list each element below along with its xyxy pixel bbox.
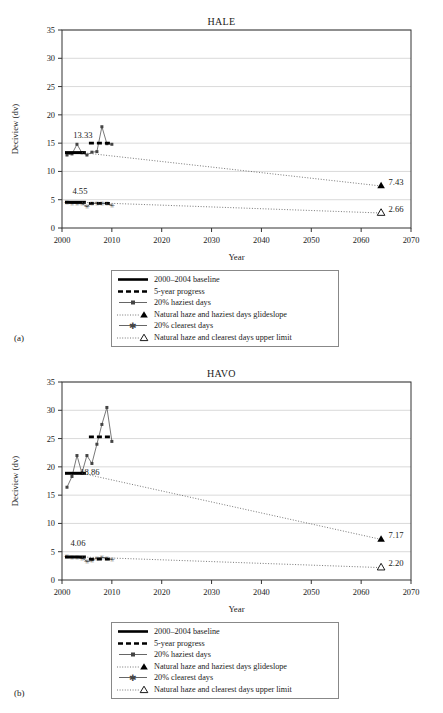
y-tick-label: 35	[47, 378, 55, 387]
series-haziest-marker	[100, 423, 103, 426]
line-square-marker-icon	[116, 297, 150, 308]
y-tick-label: 10	[47, 519, 55, 528]
limit-endpoint-marker-open	[377, 209, 385, 216]
svg-text:✱: ✱	[129, 321, 137, 331]
line-star-marker-icon: ✱	[116, 320, 150, 331]
legend-item: Natural haze and clearest days upper lim…	[116, 684, 334, 696]
x-axis-title: Year	[228, 604, 244, 614]
y-tick-label: 25	[47, 435, 55, 444]
series-haziest-marker	[70, 475, 73, 478]
legend-item-label: 20% clearest days	[154, 320, 213, 331]
series-limit-clearest	[82, 557, 381, 568]
y-tick-label: 15	[47, 491, 55, 500]
series-haziest-marker	[95, 443, 98, 446]
y-tick-label: 20	[47, 463, 55, 472]
series-limit-clearest	[82, 202, 381, 213]
annotation-baseline-value-haziest: 18.86	[80, 467, 100, 477]
x-tick-label: 2070	[403, 236, 420, 245]
annotation-glideslope-endpoint-haziest: 7.17	[389, 530, 405, 540]
series-haziest-marker	[110, 440, 113, 443]
dashed-thick-line-icon	[116, 286, 150, 297]
y-tick-label: 30	[47, 406, 55, 415]
legend-item: 20% haziest days	[116, 297, 334, 309]
glideslope-endpoint-marker-filled	[377, 535, 385, 542]
solid-thick-line-icon	[116, 274, 150, 285]
chart-svg-hale: 0510152025303520002010202020302040205020…	[0, 0, 443, 270]
legend-item-label: Natural haze and clearest days upper lim…	[154, 332, 292, 343]
glideslope-endpoint-marker-filled	[377, 182, 385, 189]
legend-item-label: 5-year progress	[154, 638, 205, 649]
annotation-baseline-value-haziest: 13.33	[73, 130, 92, 140]
series-haziest-marker	[110, 143, 113, 146]
legend-item: Natural haze and haziest days glideslope	[116, 309, 334, 321]
dotted-line-open-triangle-icon	[116, 684, 150, 695]
x-tick-label: 2060	[353, 236, 370, 245]
legend-item: 5-year progress	[116, 638, 334, 650]
plot-area-hale: 0510152025303520002010202020302040205020…	[0, 0, 443, 270]
legend-item: 5-year progress	[116, 286, 334, 298]
legend-item-label: 20% clearest days	[154, 672, 213, 683]
x-axis-title: Year	[228, 252, 244, 262]
dotted-line-open-triangle-icon	[116, 332, 150, 343]
series-haziest-marker	[85, 454, 88, 457]
x-tick-label: 2030	[203, 236, 220, 245]
annotation-glideslope-endpoint-clearest: 2.66	[389, 204, 405, 214]
series-glideslope-haziest	[82, 153, 381, 186]
y-axis-title: Deciview (dv)	[10, 104, 20, 155]
annotation-glideslope-endpoint-clearest: 2.20	[389, 558, 404, 568]
x-tick-label: 2060	[353, 588, 370, 597]
panel-letter-a: (a)	[14, 333, 24, 343]
legend-item: ✱ 20% clearest days	[116, 672, 334, 684]
y-tick-label: 5	[51, 548, 55, 557]
series-haziest-marker	[105, 406, 108, 409]
y-tick-label: 5	[51, 196, 55, 205]
legend-item-label: 2000–2004 baseline	[154, 274, 220, 285]
dotted-line-filled-triangle-icon	[116, 661, 150, 672]
series-haziest-marker	[75, 143, 78, 146]
y-tick-label: 35	[47, 26, 55, 35]
x-tick-label: 2050	[303, 588, 320, 597]
legend-item: 20% haziest days	[116, 649, 334, 661]
x-tick-label: 2020	[153, 588, 170, 597]
limit-endpoint-marker-open	[377, 563, 385, 570]
legend-item: Natural haze and haziest days glideslope	[116, 661, 334, 673]
legend-item: Natural haze and clearest days upper lim…	[116, 332, 334, 344]
line-star-marker-icon: ✱	[116, 672, 150, 683]
legend-item: 2000–2004 baseline	[116, 626, 334, 638]
y-tick-label: 25	[47, 83, 55, 92]
y-tick-label: 20	[47, 111, 55, 120]
x-tick-label: 2070	[403, 588, 420, 597]
y-axis-title: Deciview (dv)	[10, 456, 20, 507]
x-tick-label: 2030	[203, 588, 220, 597]
dashed-thick-line-icon	[116, 638, 150, 649]
legend-item-label: 20% haziest days	[154, 297, 211, 308]
plot-frame	[62, 382, 411, 580]
legend-item: ✱ 20% clearest days	[116, 320, 334, 332]
y-tick-label: 0	[51, 224, 55, 233]
legend-item-label: Natural haze and haziest days glideslope	[154, 309, 287, 320]
line-square-marker-icon	[116, 649, 150, 660]
figure-panel-b: HAVO 05101520253035200020102020203020402…	[0, 352, 443, 713]
legend-item-label: 2000–2004 baseline	[154, 626, 220, 637]
solid-thick-line-icon	[116, 626, 150, 637]
legend-item: 2000–2004 baseline	[116, 274, 334, 286]
figure-panel-a: HALE 05101520253035200020102020203020402…	[0, 0, 443, 352]
legend-item-label: 20% haziest days	[154, 649, 211, 660]
plot-area-havo: 0510152025303520002010202020302040205020…	[0, 352, 443, 622]
x-tick-label: 2000	[54, 588, 71, 597]
series-haziest-marker	[90, 462, 93, 465]
x-tick-label: 2000	[54, 236, 71, 245]
legend-item-label: 5-year progress	[154, 286, 205, 297]
legend-item-label: Natural haze and clearest days upper lim…	[154, 684, 292, 695]
plot-frame	[62, 30, 411, 228]
y-tick-label: 0	[51, 576, 55, 585]
series-haziest-marker	[100, 125, 103, 128]
y-tick-label: 15	[47, 139, 55, 148]
x-tick-label: 2010	[103, 588, 120, 597]
series-glideslope-haziest	[82, 473, 381, 539]
panel-letter-b: (b)	[14, 688, 25, 698]
y-tick-label: 30	[47, 54, 55, 63]
dotted-line-filled-triangle-icon	[116, 309, 150, 320]
x-tick-label: 2050	[303, 236, 320, 245]
series-haziest-marker	[75, 454, 78, 457]
